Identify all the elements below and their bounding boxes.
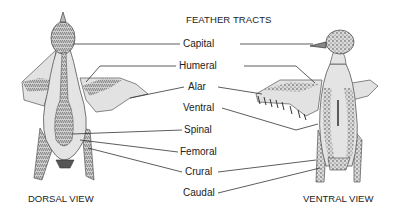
diagram-title: FEATHER TRACTS [186,14,272,25]
label-caudal: Caudal [183,187,215,199]
dorsal-view-label: DORSAL VIEW [28,193,94,204]
label-spinal: Spinal [184,124,212,136]
label-crural: Crural [185,166,212,178]
ventral-bird [256,30,378,182]
label-alar: Alar [188,81,206,93]
label-humeral: Humeral [179,60,217,72]
ventral-view-label: VENTRAL VIEW [303,193,373,204]
label-femoral: Femoral [180,146,217,158]
label-capital: Capital [183,38,214,50]
label-ventral: Ventral [183,102,214,114]
dorsal-bird [22,12,148,180]
feather-tracts-diagram: FEATHER TRACTS Capital Humeral Alar Vent… [0,0,402,217]
